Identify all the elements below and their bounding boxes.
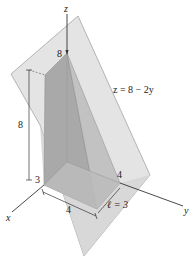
- base-width-label: 4: [66, 204, 71, 215]
- wedge-diagram: z x y 8 8 3 4 4 ℓ = 3 z = 8 − 2y: [0, 0, 191, 258]
- z-axis-label: z: [63, 3, 68, 14]
- z-top-label: 8: [57, 48, 62, 59]
- y-extent-label: 4: [117, 169, 122, 180]
- x-axis-label: x: [5, 212, 11, 223]
- length-label: ℓ = 3: [107, 199, 128, 210]
- x-axis: [12, 185, 44, 212]
- y-axis-label: y: [183, 205, 189, 216]
- x-extent-label: 3: [35, 174, 40, 185]
- plane-equation-label: z = 8 − 2y: [113, 84, 154, 95]
- height-label: 8: [18, 119, 23, 130]
